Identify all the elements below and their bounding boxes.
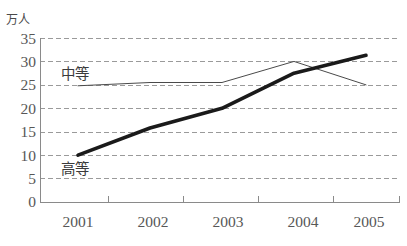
- plot-area: [0, 0, 407, 246]
- line-chart: 万人 35 30 25 20 15 10 5 0 2001 2002 2003 …: [0, 0, 407, 246]
- axes: [40, 38, 400, 203]
